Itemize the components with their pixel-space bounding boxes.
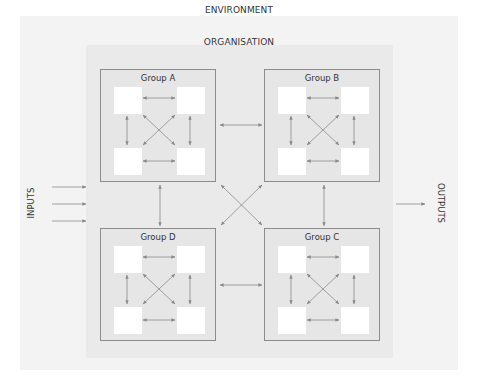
environment-label: ENVIRONMENT <box>0 5 478 15</box>
group-a-node-top-left <box>114 87 142 114</box>
group-b-node-bottom-right <box>341 148 369 175</box>
group-c: Group C <box>264 228 380 341</box>
group-b-node-top-left <box>278 87 306 114</box>
group-d-title: Group D <box>101 232 215 242</box>
group-d-node-bottom-right <box>177 307 205 334</box>
outputs-label: OUTPUTS <box>436 183 446 223</box>
group-d: Group D <box>100 228 216 341</box>
group-d-node-top-right <box>177 246 205 273</box>
group-c-node-bottom-right <box>341 307 369 334</box>
group-b-title: Group B <box>265 73 379 83</box>
group-b-node-bottom-left <box>278 148 306 175</box>
group-a-node-bottom-right <box>177 148 205 175</box>
group-d-node-bottom-left <box>114 307 142 334</box>
group-a-node-top-right <box>177 87 205 114</box>
inputs-label: INPUTS <box>26 188 36 219</box>
group-a-title: Group A <box>101 73 215 83</box>
group-c-title: Group C <box>265 232 379 242</box>
group-b-node-top-right <box>341 87 369 114</box>
group-c-node-bottom-left <box>278 307 306 334</box>
group-b: Group B <box>264 69 380 182</box>
organisation-label: ORGANISATION <box>0 37 478 47</box>
group-c-node-top-right <box>341 246 369 273</box>
group-a: Group A <box>100 69 216 182</box>
group-d-node-top-left <box>114 246 142 273</box>
group-a-node-bottom-left <box>114 148 142 175</box>
group-c-node-top-left <box>278 246 306 273</box>
